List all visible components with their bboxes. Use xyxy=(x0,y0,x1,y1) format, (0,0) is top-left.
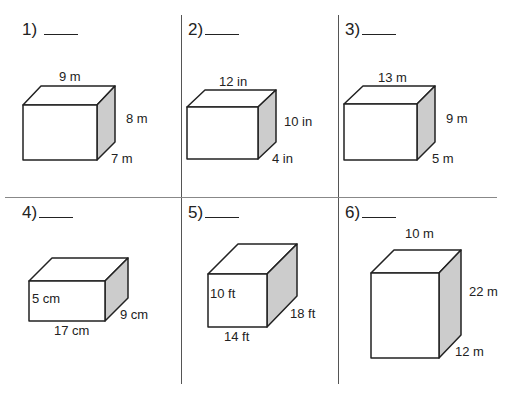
dimension-label: 9 m xyxy=(446,111,468,126)
answer-blank-4[interactable] xyxy=(39,203,73,218)
answer-blank-1[interactable] xyxy=(44,20,78,35)
problem-number-3: 3) xyxy=(345,20,396,40)
prism-figure-4 xyxy=(29,258,128,321)
answer-blank-3[interactable] xyxy=(362,20,396,35)
dimension-label: 18 ft xyxy=(290,306,315,321)
answer-blank-2[interactable] xyxy=(205,20,239,35)
dimension-label: 5 m xyxy=(432,151,454,166)
dimension-label: 10 m xyxy=(405,226,434,241)
problem-number-6: 6) xyxy=(345,203,396,223)
dimension-label: 22 m xyxy=(469,284,498,299)
dimension-label: 9 m xyxy=(59,69,81,84)
dimension-label: 7 m xyxy=(111,151,133,166)
prism-figure-6 xyxy=(371,250,461,358)
prism-figure-3 xyxy=(344,86,435,160)
problem-number-2: 2) xyxy=(188,20,239,40)
dimension-label: 4 in xyxy=(272,151,293,166)
problem-number-5: 5) xyxy=(188,203,239,223)
dimension-label: 17 cm xyxy=(54,323,89,338)
dimension-label: 10 in xyxy=(284,114,312,129)
problem-number-4: 4) xyxy=(22,203,73,223)
problem-number-1: 1) xyxy=(22,20,78,40)
prism-figure-1 xyxy=(23,86,115,160)
dimension-label: 10 ft xyxy=(210,286,235,301)
dimension-label: 12 m xyxy=(455,344,484,359)
dimension-label: 9 cm xyxy=(120,307,148,322)
dimension-label: 13 m xyxy=(378,70,407,85)
dimension-label: 14 ft xyxy=(224,329,249,344)
dimension-label: 5 cm xyxy=(32,291,60,306)
dimension-label: 8 m xyxy=(126,111,148,126)
answer-blank-6[interactable] xyxy=(362,203,396,218)
answer-blank-5[interactable] xyxy=(205,203,239,218)
dimension-label: 12 in xyxy=(219,74,247,89)
prism-figure-2 xyxy=(187,90,276,159)
